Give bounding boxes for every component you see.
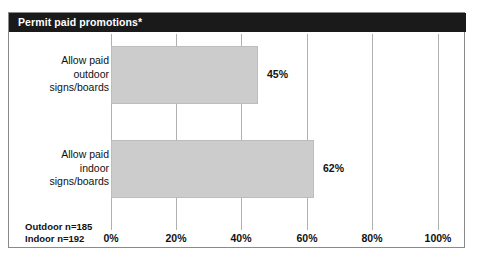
gridline-80 [372,34,373,230]
page-title: Permit paid promotions* [18,16,142,28]
category-label-indoor-line-3: signs/boards [0,175,109,189]
category-label-outdoor-line-2: outdoor [0,68,109,82]
xtick-label-20: 20% [165,232,186,244]
sample-size-notes: Outdoor n=185 Indoor n=192 [25,221,92,244]
sample-size-indoor: Indoor n=192 [25,233,92,245]
category-label-indoor-line-2: indoor [0,162,109,176]
xtick-label-80: 80% [361,232,382,244]
xtick-label-0: 0% [103,232,118,244]
xtick-label-40: 40% [230,232,251,244]
bar-indoor [111,140,314,198]
gridline-100 [438,34,439,230]
xtick-label-100: 100% [425,232,452,244]
plot-area: Allow paid outdoor signs/boards 45% Allo… [9,32,466,248]
gridline-60 [307,34,308,230]
sample-size-outdoor: Outdoor n=185 [25,221,92,233]
category-label-outdoor-line-3: signs/boards [0,81,109,95]
bar-value-indoor: 62% [323,162,344,174]
chart-title-bar: Permit paid promotions* [9,13,466,32]
category-label-indoor: Allow paid indoor signs/boards [0,148,109,189]
bar-value-outdoor: 45% [267,68,288,80]
bar-outdoor [111,46,258,104]
chart-frame: Permit paid promotions* Allow paid outdo… [8,12,465,248]
xtick-label-60: 60% [296,232,317,244]
category-label-outdoor-line-1: Allow paid [0,54,109,68]
category-label-indoor-line-1: Allow paid [0,148,109,162]
category-label-outdoor: Allow paid outdoor signs/boards [0,54,109,95]
